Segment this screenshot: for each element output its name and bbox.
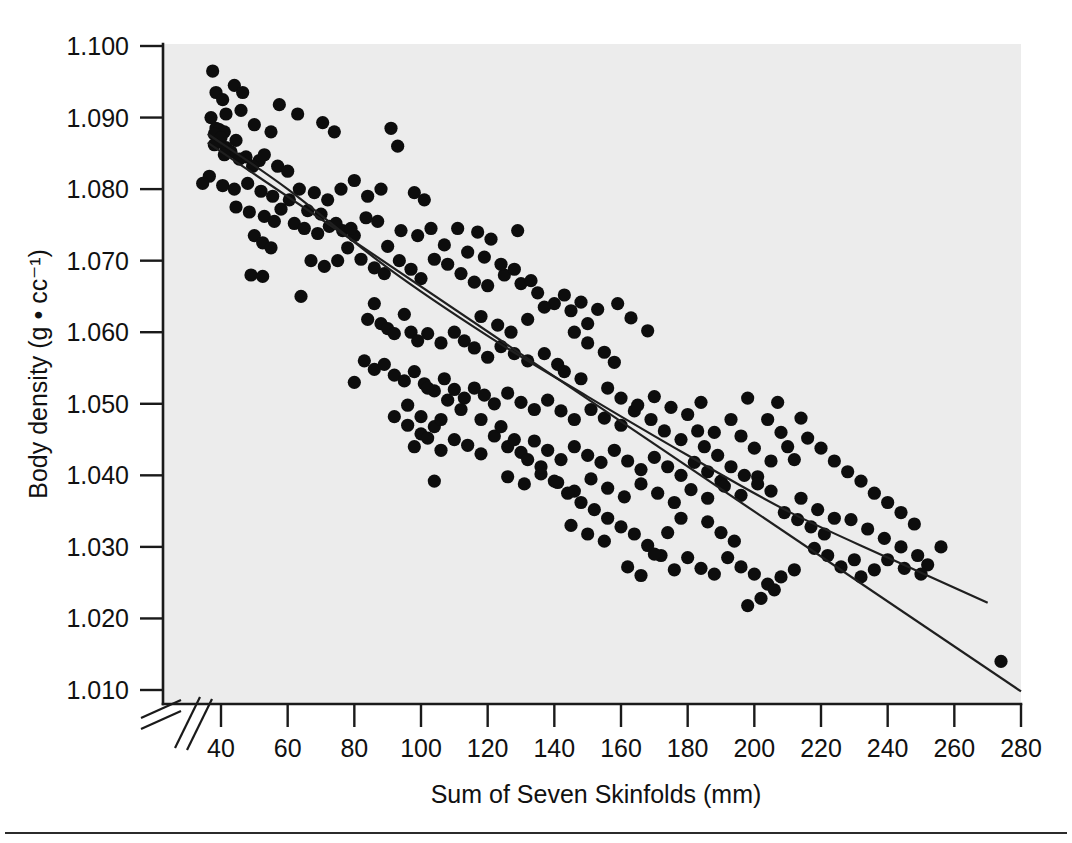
scatter-point xyxy=(624,311,637,324)
scatter-point xyxy=(368,297,381,310)
scatter-point xyxy=(681,408,694,421)
scatter-point xyxy=(574,296,587,309)
scatter-point xyxy=(668,496,681,509)
scatter-point xyxy=(724,413,737,426)
scatter-point xyxy=(266,190,279,203)
scatter-point xyxy=(588,503,601,516)
scatter-point xyxy=(491,318,504,331)
scatter-point xyxy=(664,401,677,414)
scatter-point xyxy=(401,419,414,432)
scatter-point xyxy=(481,279,494,292)
scatter-point xyxy=(781,440,794,453)
scatter-point xyxy=(434,444,447,457)
scatter-point xyxy=(484,233,497,246)
scatter-point xyxy=(408,365,421,378)
scatter-point xyxy=(644,413,657,426)
scatter-point xyxy=(398,374,411,387)
scatter-point xyxy=(568,413,581,426)
scatter-point xyxy=(274,203,287,216)
scatter-point xyxy=(401,399,414,412)
scatter-plot-chart: 1.0101.0201.0301.0401.0501.0601.0701.080… xyxy=(0,0,1072,843)
scatter-point xyxy=(534,460,547,473)
scatter-point xyxy=(404,263,417,276)
x-tick-label: 80 xyxy=(340,734,368,762)
scatter-point xyxy=(611,297,624,310)
scatter-point xyxy=(738,469,751,482)
scatter-point xyxy=(441,394,454,407)
y-tick-label: 1.070 xyxy=(66,247,129,275)
scatter-point xyxy=(394,224,407,237)
scatter-point xyxy=(359,211,372,224)
scatter-point xyxy=(828,512,841,525)
x-tick-label: 160 xyxy=(600,734,642,762)
scatter-point xyxy=(598,346,611,359)
scatter-point xyxy=(598,535,611,548)
scatter-point xyxy=(448,326,461,339)
scatter-point xyxy=(568,326,581,339)
scatter-point xyxy=(774,570,787,583)
scatter-point xyxy=(328,125,341,138)
scatter-point xyxy=(801,432,814,445)
figure-container: 1.0101.0201.0301.0401.0501.0601.0701.080… xyxy=(0,0,1072,843)
scatter-point xyxy=(728,535,741,548)
scatter-point xyxy=(701,492,714,505)
scatter-point xyxy=(441,258,454,271)
scatter-point xyxy=(216,179,229,192)
scatter-point xyxy=(774,426,787,439)
scatter-point xyxy=(388,410,401,423)
scatter-point xyxy=(724,460,737,473)
scatter-point xyxy=(494,258,507,271)
scatter-point xyxy=(668,563,681,576)
scatter-point xyxy=(241,177,254,190)
scatter-point xyxy=(558,365,571,378)
scatter-point xyxy=(708,426,721,439)
scatter-point xyxy=(398,308,411,321)
scatter-point xyxy=(481,351,494,364)
x-tick-label: 60 xyxy=(274,734,302,762)
scatter-point xyxy=(641,324,654,337)
scatter-point xyxy=(601,482,614,495)
scatter-point xyxy=(548,474,561,487)
scatter-point xyxy=(361,313,374,326)
scatter-point xyxy=(344,222,357,235)
scatter-point xyxy=(528,434,541,447)
scatter-point xyxy=(348,174,361,187)
scatter-point xyxy=(298,222,311,235)
y-tick-label: 1.050 xyxy=(66,390,129,418)
scatter-point xyxy=(741,391,754,404)
scatter-point xyxy=(788,563,801,576)
scatter-point xyxy=(558,288,571,301)
scatter-point xyxy=(291,107,304,120)
scatter-point xyxy=(494,420,507,433)
scatter-point xyxy=(648,451,661,464)
scatter-point xyxy=(581,317,594,330)
scatter-point xyxy=(438,372,451,385)
scatter-point xyxy=(568,440,581,453)
x-tick-label: 180 xyxy=(667,734,709,762)
scatter-point xyxy=(528,403,541,416)
scatter-point xyxy=(601,512,614,525)
scatter-point xyxy=(754,592,767,605)
x-tick-label: 120 xyxy=(467,734,509,762)
scatter-point xyxy=(304,254,317,267)
scatter-point xyxy=(848,553,861,566)
y-tick-label: 1.100 xyxy=(66,32,129,60)
scatter-point xyxy=(911,549,924,562)
x-axis-title: Sum of Seven Skinfolds (mm) xyxy=(431,780,762,808)
scatter-point xyxy=(628,527,641,540)
scatter-point xyxy=(564,519,577,532)
scatter-point xyxy=(788,453,801,466)
scatter-point xyxy=(658,424,671,437)
scatter-point xyxy=(581,449,594,462)
scatter-point xyxy=(574,372,587,385)
scatter-point xyxy=(881,496,894,509)
scatter-point xyxy=(229,200,242,213)
scatter-point xyxy=(878,532,891,545)
scatter-point xyxy=(844,513,857,526)
scatter-point xyxy=(341,241,354,254)
scatter-point xyxy=(478,250,491,263)
scatter-point xyxy=(684,483,697,496)
scatter-point xyxy=(374,183,387,196)
scatter-point xyxy=(361,190,374,203)
scatter-point xyxy=(206,64,219,77)
